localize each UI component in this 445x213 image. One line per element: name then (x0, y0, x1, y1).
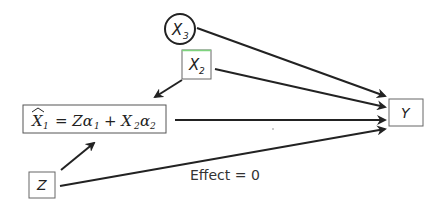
node-x2: X 2 (182, 50, 211, 79)
node-x1hat: X 1 = Zα 1 + X 2 α 2 (23, 105, 166, 133)
node-z: Z (29, 172, 55, 198)
eq-alpha1-sub: 1 (94, 121, 100, 131)
node-x2-sub: 2 (199, 66, 205, 76)
node-z-label: Z (36, 177, 47, 193)
node-y-label: Y (401, 105, 411, 121)
causal-diagram: X 3 X 2 X 1 = Zα 1 + X 2 α 2 Z Y Effect … (0, 0, 445, 213)
edge-x2-to-x1hat (155, 80, 182, 97)
eq-x2-sub: 2 (133, 121, 140, 131)
edge-x2-to-y (215, 69, 385, 107)
node-x3: X 3 (165, 14, 195, 44)
x1hat-sub: 1 (43, 121, 49, 131)
edge-label-effect: Effect = 0 (190, 167, 260, 183)
edge-z-to-x1hat (61, 143, 94, 170)
eq-plus-x: + X (104, 112, 133, 130)
node-x3-label: X (171, 21, 183, 39)
eq-z-alpha: = Zα (55, 112, 93, 130)
stray-dot (272, 128, 274, 130)
node-x3-sub: 3 (183, 31, 189, 41)
eq-alpha2-sub: 2 (149, 121, 156, 131)
eq-alpha2: α (140, 112, 150, 130)
node-y: Y (389, 99, 423, 126)
